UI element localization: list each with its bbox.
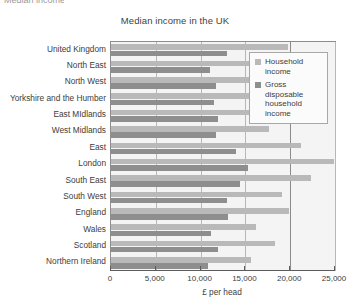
bar-gross-disposable-household-income xyxy=(111,67,210,73)
bar-gross-disposable-household-income xyxy=(111,263,208,269)
bar-gross-disposable-household-income xyxy=(111,100,214,106)
x-axis-tick xyxy=(155,266,156,271)
median-income-bar-chart: Median income Median income in the UK Un… xyxy=(0,0,350,306)
x-axis-tick xyxy=(110,266,111,271)
bar-household-income xyxy=(111,257,251,263)
cropped-header-label: Median income xyxy=(4,0,64,5)
chart-title: Median income in the UK xyxy=(0,15,350,26)
y-axis-label: England xyxy=(0,208,106,217)
legend-item-gross-disposable-household-income: Gross disposable household income xyxy=(255,80,323,118)
bar-row xyxy=(111,189,335,205)
bar-gross-disposable-household-income xyxy=(111,198,227,204)
bar-row xyxy=(111,255,335,271)
bar-household-income xyxy=(111,93,265,99)
bar-gross-disposable-household-income xyxy=(111,247,218,253)
bar-household-income xyxy=(111,241,275,247)
y-axis-label: Wales xyxy=(0,225,106,234)
x-axis-tick-label: 25,000 xyxy=(322,274,346,283)
y-axis-label: West Midlands xyxy=(0,126,106,135)
gridline-25000 xyxy=(335,42,336,271)
bar-row xyxy=(111,140,335,156)
x-axis-tick xyxy=(289,266,290,271)
bar-gross-disposable-household-income xyxy=(111,165,248,171)
x-axis-tick xyxy=(334,266,335,271)
bar-gross-disposable-household-income xyxy=(111,116,218,122)
legend: Household income Gross disposable househ… xyxy=(249,52,328,124)
bar-row xyxy=(111,124,335,140)
bar-gross-disposable-household-income xyxy=(111,149,236,155)
bar-row xyxy=(111,173,335,189)
bar-household-income xyxy=(111,126,269,132)
x-axis-tick xyxy=(200,266,201,271)
x-axis-tick xyxy=(244,266,245,271)
y-axis-label: London xyxy=(0,159,106,168)
bar-household-income xyxy=(111,175,311,181)
bar-gross-disposable-household-income xyxy=(111,214,228,220)
x-axis-line xyxy=(110,270,334,271)
bar-household-income xyxy=(111,61,257,67)
bar-household-income xyxy=(111,224,256,230)
y-axis-label: Northern Ireland xyxy=(0,257,106,266)
bar-gross-disposable-household-income xyxy=(111,231,211,237)
y-axis-label: South West xyxy=(0,192,106,201)
y-axis-label: South East xyxy=(0,176,106,185)
y-axis-category-labels: United KingdomNorth EastNorth WestYorksh… xyxy=(0,41,106,270)
bar-row xyxy=(111,222,335,238)
legend-swatch-gross-disposable-household-income xyxy=(255,82,261,88)
y-axis-label: East MIdlands xyxy=(0,110,106,119)
bar-gross-disposable-household-income xyxy=(111,83,216,89)
bar-household-income xyxy=(111,77,267,83)
y-axis-label: United Kingdom xyxy=(0,45,106,54)
cropped-header-text: Median income xyxy=(4,0,64,6)
bar-household-income xyxy=(111,192,282,198)
bar-household-income xyxy=(111,143,301,149)
x-axis-title: £ per head xyxy=(110,287,334,297)
legend-swatch-household-income xyxy=(255,59,261,65)
y-axis-label: Scotland xyxy=(0,241,106,250)
bar-household-income xyxy=(111,110,268,116)
y-axis-label: Yorkshire and the Humber xyxy=(0,94,106,103)
bar-row xyxy=(111,238,335,254)
x-axis-tick-label: 0 xyxy=(108,274,112,283)
bar-gross-disposable-household-income xyxy=(111,181,240,187)
legend-label-household-income: Household income xyxy=(265,57,323,76)
y-axis-label: North West xyxy=(0,77,106,86)
bar-row xyxy=(111,206,335,222)
y-axis-label: East xyxy=(0,143,106,152)
y-axis-label: North East xyxy=(0,61,106,70)
bar-household-income xyxy=(111,159,334,165)
x-axis-tick-label: 5,000 xyxy=(145,274,165,283)
bar-gross-disposable-household-income xyxy=(111,51,227,57)
legend-label-gross-disposable-household-income: Gross disposable household income xyxy=(265,80,323,118)
x-axis-tick-label: 20,000 xyxy=(277,274,301,283)
x-axis-tick-label: 10,000 xyxy=(187,274,211,283)
bar-gross-disposable-household-income xyxy=(111,132,216,138)
x-axis-tick-label: 15,000 xyxy=(232,274,256,283)
legend-item-household-income: Household income xyxy=(255,57,323,76)
bar-household-income xyxy=(111,44,288,50)
bar-household-income xyxy=(111,208,289,214)
bar-row xyxy=(111,157,335,173)
